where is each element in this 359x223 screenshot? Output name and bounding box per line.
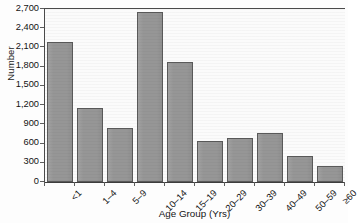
bar — [257, 133, 283, 182]
y-axis-tick-labels: 03006009001,2001,5001,8002,1002,4002,700 — [12, 4, 39, 185]
bar-series — [45, 9, 345, 182]
bar-shading — [288, 157, 312, 181]
x-axis-tick-label: 5–9 — [131, 188, 149, 206]
bar — [167, 62, 193, 182]
y-axis-tick-label: 1,200 — [12, 100, 39, 109]
x-axis-tick-label: 1–4 — [101, 188, 119, 206]
bar-shading — [258, 134, 282, 181]
bar — [77, 108, 103, 182]
x-axis-tick-label: <1 — [69, 188, 84, 203]
bar — [137, 12, 163, 182]
y-axis-tick-label: 1,500 — [12, 80, 39, 89]
bar-shading — [78, 109, 102, 181]
bar — [317, 166, 343, 182]
x-axis-tick-labels: <11–45–910–1415–1920–2930–3940–4950–59≥6… — [44, 186, 345, 210]
bar-shading — [318, 167, 342, 181]
y-axis-tick-label: 2,100 — [12, 42, 39, 51]
y-axis-tick-label: 2,700 — [12, 4, 39, 13]
y-axis-tick-label: 0 — [12, 177, 39, 186]
x-axis-tick-label: ≥60 — [341, 188, 359, 206]
y-axis-tick-label: 2,400 — [12, 23, 39, 32]
bar-shading — [168, 63, 192, 181]
y-axis-tick-label: 600 — [12, 138, 39, 147]
bar — [47, 42, 73, 182]
bar — [197, 141, 223, 182]
y-axis-tick-label: 1,800 — [12, 61, 39, 70]
bar-shading — [228, 139, 252, 181]
bar-shading — [48, 43, 72, 181]
bar-shading — [138, 13, 162, 181]
y-axis-tick-label: 900 — [12, 119, 39, 128]
y-axis-tick-label: 300 — [12, 157, 39, 166]
bar — [107, 128, 133, 182]
bar — [287, 156, 313, 182]
bar-shading — [198, 142, 222, 181]
x-axis-title: Age Group (Yrs) — [44, 208, 345, 219]
bar — [227, 138, 253, 182]
plot-area — [44, 8, 345, 183]
bar-shading — [108, 129, 132, 181]
